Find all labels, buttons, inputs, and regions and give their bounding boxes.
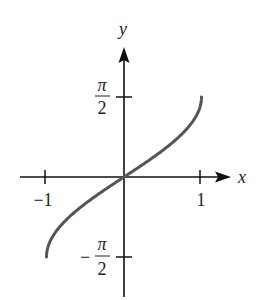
x-axis-label: x [237,167,246,187]
x-tick-label-neg1: −1 [33,190,52,210]
y-axis-label: y [117,19,127,39]
y-tick-label-pi-half: π 2 [95,75,110,118]
denominator: 2 [98,98,107,118]
x-tick-label-1: 1 [197,190,206,210]
denominator: 2 [98,259,107,279]
pi-numerator: π [97,234,107,254]
pi-numerator: π [97,75,107,95]
arcsin-chart: x y −1 1 π 2 − π 2 [0,0,258,300]
y-tick-label-neg-pi-half: − π 2 [80,234,110,279]
minus-sign: − [80,247,90,267]
